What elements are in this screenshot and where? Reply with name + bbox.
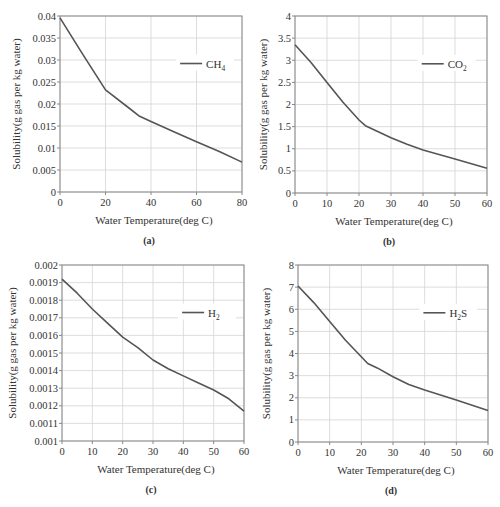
grid [62, 265, 244, 441]
grid [298, 265, 488, 442]
y-tick-label: 1 [286, 143, 291, 154]
y-axis-ticks: 0.0010.00110.00120.00130.00140.00150.001… [29, 260, 62, 447]
x-axis-ticks: 0102030405060 [295, 442, 493, 458]
x-tick-label: 10 [87, 446, 98, 457]
x-tick-label: 30 [386, 198, 397, 209]
y-tick-label: 4 [286, 11, 292, 22]
y-tick-label: 0.015 [32, 121, 56, 132]
y-tick-label: 0.001 [34, 436, 58, 447]
figure: 00.0050.010.0150.020.0250.030.0350.04020… [0, 0, 500, 507]
y-tick-label: 0.01 [38, 143, 56, 154]
x-tick-label: 0 [57, 197, 62, 208]
legend: CO2 [418, 55, 476, 73]
x-tick-label: 20 [117, 446, 128, 457]
y-tick-label: 2.5 [278, 77, 291, 88]
x-tick-label: 20 [100, 197, 111, 208]
y-tick-label: 7 [289, 282, 294, 293]
y-tick-label: 0.04 [38, 11, 57, 22]
y-tick-label: 0.002 [34, 260, 58, 271]
y-tick-label: 0 [286, 188, 291, 199]
y-tick-label: 0.5 [278, 165, 291, 176]
y-tick-label: 0.005 [32, 165, 56, 176]
x-tick-label: 60 [191, 197, 202, 208]
x-axis-label: Water Temperature(deg C) [95, 214, 213, 227]
y-tick-label: 1 [289, 414, 294, 425]
y-tick-label: 4 [289, 348, 295, 359]
y-tick-label: 2 [289, 392, 294, 403]
y-tick-label: 0.0016 [29, 330, 58, 341]
x-tick-label: 60 [482, 198, 493, 209]
legend: H2 [178, 304, 236, 322]
x-tick-label: 50 [450, 198, 461, 209]
y-axis-ticks: 00.0050.010.0150.020.0250.030.0350.04 [32, 11, 60, 198]
x-tick-label: 20 [356, 447, 367, 458]
x-tick-label: 40 [418, 198, 429, 209]
x-axis-label: Water Temperature(deg C) [97, 463, 215, 476]
panel-label: (d) [385, 485, 397, 497]
x-axis-label: Water Temperature(deg C) [335, 215, 453, 228]
y-tick-label: 0.0018 [29, 295, 58, 306]
y-tick-label: 3.5 [278, 33, 291, 44]
x-tick-label: 40 [178, 446, 189, 457]
x-tick-label: 20 [354, 198, 365, 209]
legend: CH4 [176, 55, 234, 73]
y-tick-label: 0.0017 [29, 312, 58, 323]
y-axis-ticks: 012345678 [289, 260, 298, 448]
y-tick-label: 6 [289, 304, 294, 315]
chart-panel-b: 00.511.522.533.540102030405060Water Temp… [257, 11, 492, 249]
panel-label: (a) [143, 235, 155, 247]
y-tick-label: 0.035 [32, 33, 56, 44]
x-tick-label: 0 [59, 446, 64, 457]
charts-canvas: 00.0050.010.0150.020.0250.030.0350.04020… [0, 0, 500, 507]
chart-panel-d: 0123456780102030405060Water Temperature(… [260, 260, 493, 498]
x-axis-label: Water Temperature(deg C) [337, 464, 455, 477]
y-tick-label: 0.03 [38, 55, 56, 66]
y-tick-label: 5 [289, 326, 294, 337]
x-tick-label: 60 [239, 446, 250, 457]
chart-panel-a: 00.0050.010.0150.020.0250.030.0350.04020… [10, 11, 247, 248]
legend: H2S [419, 304, 477, 322]
x-tick-label: 40 [419, 447, 430, 458]
chart-panel-c: 0.0010.00110.00120.00130.00140.00150.001… [6, 260, 249, 497]
panel-label: (b) [383, 236, 395, 248]
x-tick-label: 50 [451, 447, 462, 458]
x-axis-ticks: 0102030405060 [292, 193, 492, 209]
y-tick-label: 3 [286, 55, 291, 66]
y-tick-label: 0.0019 [29, 277, 58, 288]
y-tick-label: 0.02 [38, 99, 56, 110]
x-tick-label: 50 [208, 446, 219, 457]
y-tick-label: 0.0013 [29, 383, 58, 394]
x-tick-label: 40 [146, 197, 157, 208]
x-axis-ticks: 0102030405060 [59, 441, 249, 457]
grid [60, 16, 242, 192]
x-tick-label: 10 [322, 198, 333, 209]
grid [295, 16, 487, 193]
x-tick-label: 30 [148, 446, 159, 457]
y-tick-label: 0 [289, 437, 294, 448]
y-tick-label: 0.025 [32, 77, 56, 88]
x-tick-label: 0 [292, 198, 297, 209]
y-tick-label: 0.0014 [29, 365, 59, 376]
y-tick-label: 0.0011 [30, 418, 59, 429]
y-axis-label: Solubility(g gas per kg water) [260, 287, 273, 419]
y-tick-label: 2 [286, 99, 291, 110]
y-axis-label: Solubility(g gas per kg water) [10, 38, 23, 170]
y-tick-label: 0.0012 [29, 400, 58, 411]
x-axis-ticks: 020406080 [57, 192, 247, 208]
x-tick-label: 80 [237, 197, 248, 208]
y-tick-label: 0 [51, 187, 56, 198]
y-axis-ticks: 00.511.522.533.54 [278, 11, 295, 199]
y-tick-label: 3 [289, 370, 294, 381]
x-tick-label: 60 [483, 447, 494, 458]
y-tick-label: 1.5 [278, 121, 291, 132]
x-tick-label: 0 [295, 447, 300, 458]
x-tick-label: 30 [388, 447, 399, 458]
y-axis-label: Solubility(g gas per kg water) [257, 38, 270, 170]
x-tick-label: 10 [324, 447, 335, 458]
y-tick-label: 8 [289, 260, 294, 271]
y-tick-label: 0.0015 [29, 348, 58, 359]
panel-label: (c) [145, 484, 156, 496]
y-axis-label: Solubility(g gas per kg water) [6, 287, 19, 419]
